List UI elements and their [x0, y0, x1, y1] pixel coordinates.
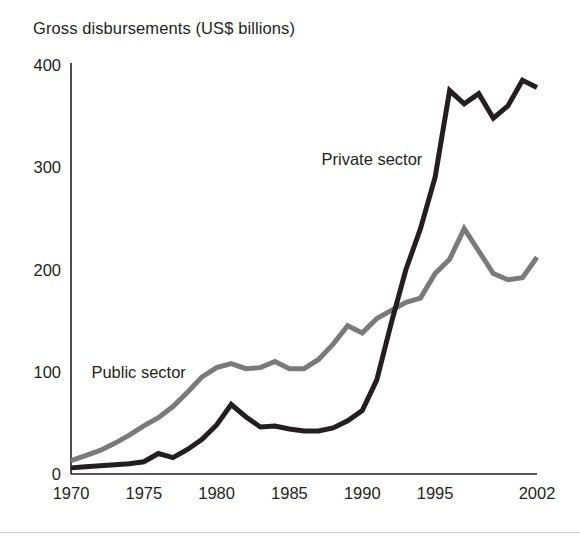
y-tick-100: 100 [33, 363, 61, 381]
bottom-divider [0, 532, 580, 533]
series-line-public-sector [71, 229, 537, 461]
line-chart-plot: 0100200300400 19701975198019851990199520… [0, 0, 580, 536]
x-tick-2002: 2002 [519, 484, 556, 502]
y-tick-300: 300 [33, 158, 61, 176]
y-tick-200: 200 [33, 261, 61, 279]
x-axis-tick-labels: 1970197519801985199019952002 [53, 484, 556, 502]
y-tick-0: 0 [52, 465, 61, 483]
x-tick-1980: 1980 [198, 484, 235, 502]
y-tick-400: 400 [33, 56, 61, 74]
x-tick-1995: 1995 [417, 484, 454, 502]
series-label-public-sector: Public sector [91, 363, 186, 381]
x-tick-1990: 1990 [344, 484, 381, 502]
x-tick-1975: 1975 [125, 484, 162, 502]
series-annotations: Public sectorPrivate sector [91, 150, 422, 381]
x-tick-1985: 1985 [271, 484, 308, 502]
y-axis-tick-labels: 0100200300400 [33, 56, 61, 483]
series-line-private-sector [71, 80, 537, 468]
chart-figure: Gross disbursements (US$ billions) 01002… [0, 0, 580, 536]
series-label-private-sector: Private sector [321, 150, 422, 168]
x-tick-1970: 1970 [53, 484, 90, 502]
series-lines [71, 80, 537, 468]
